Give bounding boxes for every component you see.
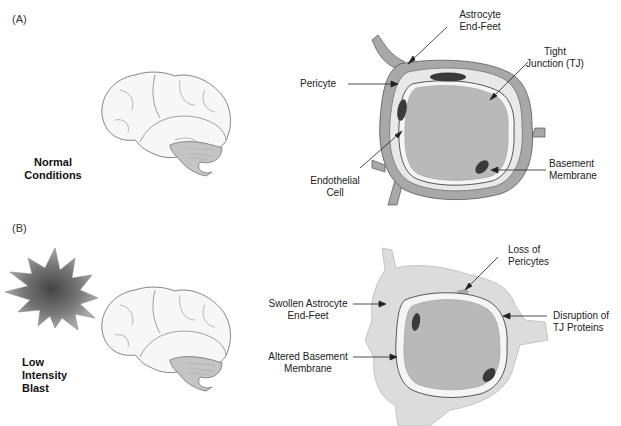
label-altered-basement: Altered Basement Membrane [264, 351, 352, 375]
label-astrocyte-end-feet: Astrocyte End-Feet [450, 9, 510, 33]
label-line: End-Feet [450, 21, 510, 33]
condition-blast: Low Intensity Blast [22, 356, 67, 395]
label-tight-junction: Tight Junction (TJ) [520, 46, 590, 70]
label-line: Membrane [549, 170, 597, 182]
brain-illustration-b [102, 287, 231, 391]
label-line: Membrane [264, 363, 352, 375]
condition-line: Low [22, 356, 67, 369]
label-line: TJ Proteins [553, 322, 609, 334]
label-line: End-Feet [264, 310, 352, 322]
label-line: Astrocyte [450, 9, 510, 21]
label-swollen-astrocyte: Swollen Astrocyte End-Feet [264, 298, 352, 322]
label-line: Disruption of [553, 310, 609, 322]
label-line: Tight [520, 46, 590, 58]
label-pericyte: Pericyte [300, 78, 336, 90]
label-line: Junction (TJ) [520, 58, 590, 70]
label-line: Altered Basement [264, 351, 352, 363]
label-basement-membrane: Basement Membrane [549, 158, 597, 182]
condition-normal: Normal Conditions [24, 156, 82, 182]
condition-line: Normal [24, 156, 82, 169]
label-loss-of-pericytes: Loss of Pericytes [508, 244, 549, 268]
label-disruption-tj: Disruption of TJ Proteins [553, 310, 609, 334]
blood-vessel-blast [365, 248, 548, 426]
label-line: Loss of [508, 244, 549, 256]
condition-line: Conditions [24, 169, 82, 182]
label-endothelial-cell: Endothelial Cell [300, 175, 370, 199]
condition-line: Blast [22, 382, 67, 395]
label-line: Swollen Astrocyte [264, 298, 352, 310]
brain-illustration-a [102, 72, 231, 176]
label-line: Basement [549, 158, 597, 170]
label-line: Cell [300, 187, 370, 199]
panel-label-b: (B) [12, 222, 27, 234]
blast-starburst-icon [5, 248, 98, 330]
condition-line: Intensity [22, 369, 67, 382]
panel-label-a: (A) [12, 13, 27, 25]
label-line: Pericytes [508, 256, 549, 268]
label-line: Endothelial [300, 175, 370, 187]
